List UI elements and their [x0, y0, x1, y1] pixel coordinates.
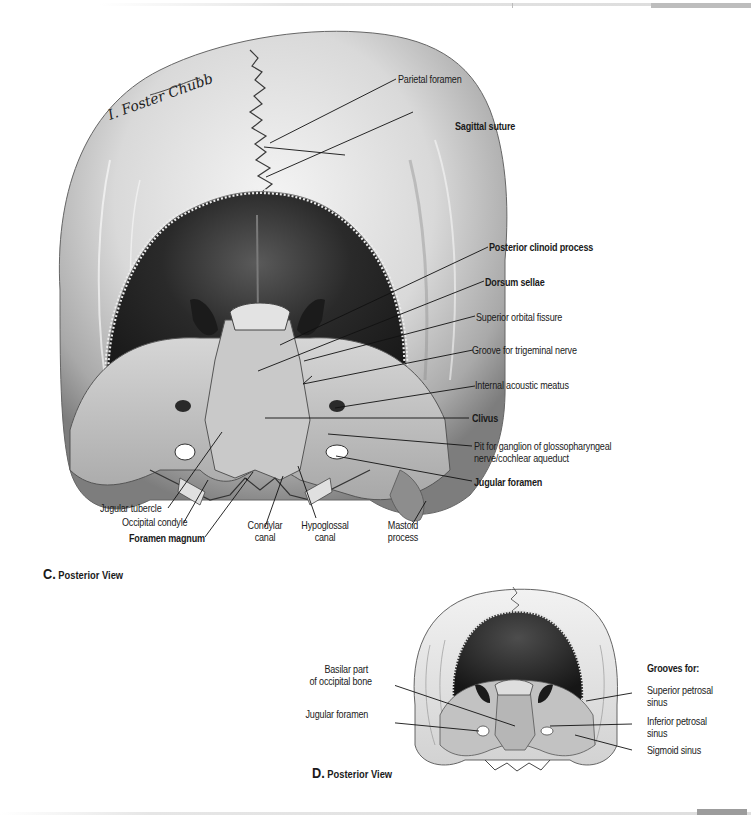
label-inferior-petrosal-sinus: Inferior petrosal sinus — [647, 715, 707, 739]
skull-posterior-large-icon: I. Foster Chubb — [0, 0, 751, 620]
label-hypoglossal-canal-line2: canal — [299, 531, 351, 543]
bottom-rule-tab — [697, 809, 747, 815]
skull-posterior-small-icon — [395, 585, 635, 775]
label-clivus: Clivus — [472, 412, 498, 424]
label-parietal-foramen: Parietal foramen — [398, 73, 462, 85]
label-inferior-petrosal-line1: Inferior petrosal — [647, 715, 707, 727]
label-basilar-part-line1: Basilar part — [310, 663, 368, 675]
label-mastoid-process: Mastoid process — [383, 519, 423, 543]
label-jugular-foramen-d: Jugular foramen — [306, 708, 364, 720]
label-posterior-clinoid-process: Posterior clinoid process — [489, 241, 593, 253]
label-superior-petrosal-line2: sinus — [647, 696, 713, 708]
label-mastoid-process-line2: process — [383, 531, 423, 543]
label-jugular-foramen-c: Jugular foramen — [474, 476, 542, 488]
label-basilar-part-line2: of occipital bone — [310, 675, 368, 687]
label-superior-orbital-fissure: Superior orbital fissure — [476, 311, 562, 323]
label-condylar-canal: Condylar canal — [244, 519, 287, 543]
figure-d-caption: D. Posterior View — [312, 764, 392, 781]
label-inferior-petrosal-line2: sinus — [647, 727, 707, 739]
label-basilar-part: Basilar part of occipital bone — [310, 663, 368, 687]
label-dorsum-sellae: Dorsum sellae — [485, 276, 545, 288]
label-foramen-magnum: Foramen magnum — [129, 532, 205, 544]
label-superior-petrosal-line1: Superior petrosal — [647, 684, 713, 696]
figure-c-letter: C. — [43, 565, 56, 582]
figure-c-title: Posterior View — [58, 569, 123, 581]
label-internal-acoustic-meatus: Internal acoustic meatus — [475, 379, 569, 391]
figure-d-title: Posterior View — [327, 768, 392, 780]
label-sigmoid-sinus: Sigmoid sinus — [647, 744, 701, 756]
label-groove-trigeminal-nerve: Groove for trigeminal nerve — [472, 344, 577, 356]
label-jugular-tubercle: Jugular tubercle — [100, 502, 162, 514]
label-superior-petrosal-sinus: Superior petrosal sinus — [647, 684, 713, 708]
label-sagittal-suture: Sagittal suture — [455, 120, 515, 132]
bottom-rule — [0, 812, 751, 815]
label-pit-ganglion-line2: nerve/cochlear aqueduct — [474, 452, 611, 464]
figure-d-illustration — [395, 585, 635, 775]
label-condylar-canal-line1: Condylar — [244, 519, 287, 531]
label-hypoglossal-canal-line1: Hypoglossal — [299, 519, 351, 531]
label-mastoid-process-line1: Mastoid — [383, 519, 423, 531]
label-occipital-condyle: Occipital condyle — [122, 516, 187, 528]
label-grooves-for: Grooves for: — [647, 662, 699, 674]
figure-c-caption: C. Posterior View — [43, 565, 123, 582]
label-condylar-canal-line2: canal — [244, 531, 287, 543]
figure-c-illustration: I. Foster Chubb — [0, 0, 751, 620]
label-pit-ganglion: Pit for ganglion of glossopharyngeal ner… — [474, 440, 611, 464]
figure-d-letter: D. — [312, 764, 325, 781]
label-pit-ganglion-line1: Pit for ganglion of glossopharyngeal — [474, 440, 611, 452]
label-hypoglossal-canal: Hypoglossal canal — [299, 519, 351, 543]
